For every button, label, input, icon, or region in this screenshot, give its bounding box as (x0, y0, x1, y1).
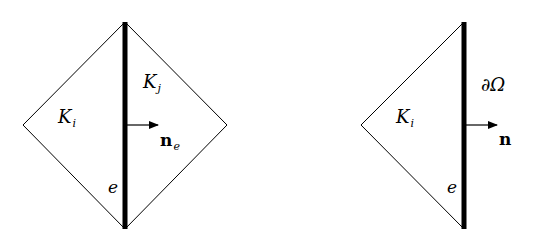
label-edge-e-left: e (108, 179, 118, 196)
label-k: K (143, 71, 156, 92)
label-sub-i: i (410, 117, 414, 130)
label-sub-i: i (72, 117, 76, 130)
label-edge-e-right: e (447, 179, 457, 196)
left-panel (23, 22, 227, 229)
label-normal-ne: ne (160, 132, 180, 149)
right-panel (361, 22, 497, 229)
label-partial-omega: ∂Ω (481, 74, 505, 95)
label-boundary-domega: ∂Ω (481, 76, 505, 94)
label-normal-n: n (499, 131, 511, 148)
label-e: e (447, 177, 457, 197)
diagram-canvas (0, 0, 536, 239)
label-sub-e: e (173, 140, 180, 153)
label-n-bold: n (499, 129, 511, 149)
label-ki-left: Ki (58, 108, 76, 126)
label-k: K (396, 106, 409, 127)
label-k: K (58, 106, 71, 127)
label-kj: Kj (143, 73, 161, 91)
label-sub-j: j (157, 82, 160, 95)
label-ki-right: Ki (396, 108, 414, 126)
label-e: e (108, 177, 118, 197)
label-n-bold: n (160, 130, 172, 150)
